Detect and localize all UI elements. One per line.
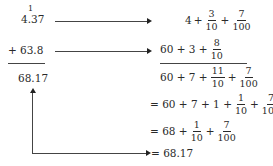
plus-sign: + xyxy=(8,45,17,56)
return-arrow-horizontal xyxy=(32,153,146,154)
op: + xyxy=(206,125,215,137)
fraction: 1 10 xyxy=(235,93,247,115)
arrow-1-shaft xyxy=(55,21,147,22)
op: + xyxy=(250,98,259,110)
fraction: 8 10 xyxy=(211,38,223,60)
fraction: 7 100 xyxy=(218,120,236,142)
fraction: 7 100 xyxy=(232,9,250,31)
step-1: 4 + 3 10 + 7 100 xyxy=(185,9,252,31)
return-arrow-vertical xyxy=(32,93,33,154)
step-4: = 60 + 7 + 1 + 1 10 + 7 100 xyxy=(150,93,273,115)
expr-prefix: = 60 + 7 + 1 + xyxy=(150,98,232,110)
addend-1: 4.37 xyxy=(21,14,44,25)
carry-digit: 1 xyxy=(28,5,33,13)
arrow-1-head-icon xyxy=(147,18,152,24)
sum-result: 68.17 xyxy=(18,73,48,84)
expr-prefix: 60 + 3 + xyxy=(160,43,208,55)
fraction: 3 10 xyxy=(206,9,218,31)
step-5: = 68 + 1 10 + 7 100 xyxy=(150,120,237,142)
arrow-up-head-icon xyxy=(30,88,36,93)
sum-rule xyxy=(8,63,45,64)
expr-prefix: 60 + 7 + xyxy=(160,71,208,83)
op: + xyxy=(194,14,203,26)
fraction: 7 100 xyxy=(240,66,258,88)
fraction: 11 10 xyxy=(211,66,225,88)
op: + xyxy=(221,14,230,26)
op: + xyxy=(228,71,237,83)
arrow-2-shaft xyxy=(55,51,147,52)
fraction: 1 10 xyxy=(191,120,203,142)
expr-prefix: = 68 + xyxy=(150,125,188,137)
step-3: 60 + 7 + 11 10 + 7 100 xyxy=(160,66,259,88)
final-result: = 68.17 xyxy=(151,148,193,159)
step-2: 60 + 3 + 8 10 xyxy=(160,38,224,60)
arrow-2-head-icon xyxy=(147,48,152,54)
fraction: 7 100 xyxy=(262,93,273,115)
term: 4 xyxy=(185,14,192,26)
step-2-rule xyxy=(160,63,247,64)
addend-2: 63.8 xyxy=(20,45,43,56)
